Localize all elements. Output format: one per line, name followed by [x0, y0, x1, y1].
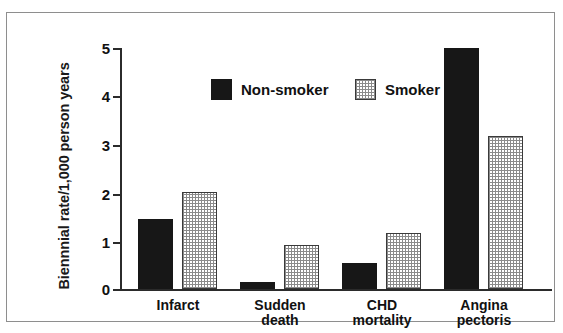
- page-caption-fragment: [0, 0, 563, 9]
- plot-area: 5 4 3 2 1 0 Non-smoker Smoker: [120, 48, 552, 291]
- y-tick-2: [113, 194, 122, 196]
- category-label-angina-pectoris: Angina pectoris: [434, 298, 534, 328]
- category-label-chd-mortality: CHD mortality: [332, 298, 432, 328]
- y-tick-4: [113, 96, 122, 98]
- bar-infarct-non-smoker[interactable]: [138, 219, 173, 289]
- bar-angina-pectoris-non-smoker[interactable]: [444, 48, 479, 289]
- category-label-infarct: Infarct: [128, 298, 228, 313]
- legend-swatch-non-smoker: [211, 79, 232, 100]
- legend-swatch-smoker: [355, 79, 376, 100]
- legend-label-smoker: Smoker: [385, 81, 440, 98]
- y-tick-label-0: 0: [84, 282, 110, 297]
- bar-chd-mortality-non-smoker[interactable]: [342, 263, 377, 289]
- chart-plate: Biennnial rate/1,000 person years 5 4 3 …: [6, 12, 555, 322]
- y-tick-3: [113, 145, 122, 147]
- bar-angina-pectoris-smoker[interactable]: [488, 136, 523, 289]
- y-axis-line: [120, 48, 122, 291]
- y-axis-title: Biennnial rate/1,000 person years: [56, 41, 72, 311]
- y-tick-label-3: 3: [84, 138, 110, 153]
- y-tick-label-2: 2: [84, 187, 110, 202]
- category-label-sudden-death: Sudden death: [230, 298, 330, 328]
- y-tick-label-5: 5: [84, 41, 110, 56]
- bar-infarct-smoker[interactable]: [182, 192, 217, 289]
- bar-sudden-death-smoker[interactable]: [284, 245, 319, 289]
- y-tick-1: [113, 242, 122, 244]
- chart-figure: Biennnial rate/1,000 person years 5 4 3 …: [0, 0, 563, 333]
- y-tick-0: [113, 289, 122, 291]
- bar-chd-mortality-smoker[interactable]: [386, 233, 421, 289]
- x-axis-line: [120, 289, 552, 291]
- legend-item-non-smoker[interactable]: Non-smoker: [211, 79, 329, 100]
- y-tick-label-1: 1: [84, 235, 110, 250]
- legend-item-smoker[interactable]: Smoker: [355, 79, 440, 100]
- bar-sudden-death-non-smoker[interactable]: [240, 282, 275, 289]
- y-tick-label-4: 4: [84, 89, 110, 104]
- legend-label-non-smoker: Non-smoker: [241, 81, 329, 98]
- y-tick-5: [113, 48, 122, 50]
